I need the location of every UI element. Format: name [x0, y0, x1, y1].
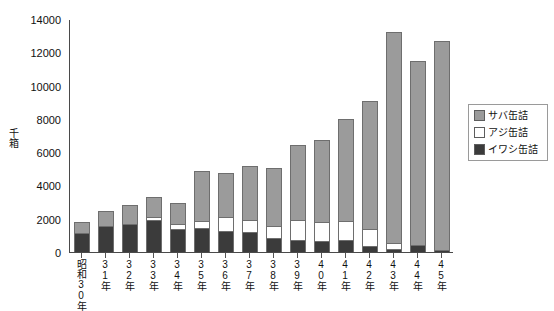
legend-swatch-saba-icon — [474, 110, 485, 121]
chart-legend: サバ缶詰アジ缶詰イワシ缶詰 — [468, 104, 548, 161]
bar-stack[interactable] — [218, 173, 234, 252]
x-axis-tick-label: 38年 — [268, 259, 279, 291]
x-axis-tick-mark — [153, 253, 154, 258]
bar-stack[interactable] — [242, 166, 258, 252]
x-axis-tick-label: 41年 — [340, 259, 351, 291]
bar-segment-iwashi[interactable] — [386, 249, 402, 252]
bar-slot — [190, 20, 214, 252]
y-axis-tick-label: 14000 — [30, 15, 61, 26]
bar-segment-iwashi[interactable] — [410, 245, 426, 252]
legend-item[interactable]: アジ缶詰 — [474, 127, 543, 138]
bar-slot — [430, 20, 454, 252]
bar-slot — [334, 20, 358, 252]
x-axis-tick-mark — [393, 253, 394, 258]
bar-stack[interactable] — [194, 171, 210, 252]
x-axis-tick-mark — [345, 253, 346, 258]
bar-slot — [286, 20, 310, 252]
bar-segment-saba[interactable] — [362, 101, 378, 229]
x-axis-tick-mark — [105, 253, 106, 258]
y-axis-tick-label: 2000 — [37, 214, 61, 225]
x-axis-tick-mark — [249, 253, 250, 258]
legend-label: サバ缶詰 — [488, 110, 528, 121]
bar-segment-aji[interactable] — [218, 217, 234, 231]
legend-swatch-aji-icon — [474, 127, 485, 138]
bar-segment-saba[interactable] — [290, 145, 306, 221]
bar-segment-iwashi[interactable] — [194, 228, 210, 252]
legend-swatch-iwashi-icon — [474, 144, 485, 155]
legend-item[interactable]: イワシ缶詰 — [474, 144, 543, 155]
bar-segment-aji[interactable] — [338, 221, 354, 240]
x-axis-tick-label: 34年 — [172, 259, 183, 291]
bar-segment-iwashi[interactable] — [98, 226, 114, 252]
bar-segment-aji[interactable] — [266, 226, 282, 238]
x-axis-tick-label: 32年 — [124, 259, 135, 291]
bar-segment-iwashi[interactable] — [74, 233, 90, 252]
bar-segment-saba[interactable] — [434, 41, 450, 249]
legend-item[interactable]: サバ缶詰 — [474, 110, 543, 121]
bar-segment-saba[interactable] — [170, 203, 186, 224]
bar-segment-saba[interactable] — [410, 61, 426, 245]
bar-segment-saba[interactable] — [218, 173, 234, 217]
x-axis-tick-mark — [273, 253, 274, 258]
bar-segment-saba[interactable] — [386, 32, 402, 243]
bar-segment-saba[interactable] — [314, 140, 330, 222]
bar-segment-aji[interactable] — [290, 220, 306, 240]
bar-segment-aji[interactable] — [194, 221, 210, 228]
bar-slot — [214, 20, 238, 252]
y-axis-tick-label: 0 — [55, 248, 61, 259]
bar-segment-iwashi[interactable] — [170, 229, 186, 252]
bar-stack[interactable] — [338, 119, 354, 252]
y-axis-tick-label: 4000 — [37, 181, 61, 192]
x-axis-tick-mark — [129, 253, 130, 258]
bar-segment-saba[interactable] — [146, 197, 162, 217]
x-axis-tick-label: 37年 — [244, 259, 255, 291]
bar-segment-saba[interactable] — [338, 119, 354, 221]
bar-stack[interactable] — [98, 211, 114, 252]
bar-segment-saba[interactable] — [74, 222, 90, 233]
x-axis-tick-mark — [369, 253, 370, 258]
bar-segment-iwashi[interactable] — [362, 246, 378, 252]
bar-segment-iwashi[interactable] — [242, 232, 258, 252]
bar-segment-saba[interactable] — [242, 166, 258, 219]
bar-stack[interactable] — [314, 140, 330, 252]
bar-segment-iwashi[interactable] — [290, 240, 306, 252]
bar-segment-iwashi[interactable] — [146, 220, 162, 252]
bar-stack[interactable] — [146, 197, 162, 252]
x-axis-tick-label: 45年 — [436, 259, 447, 291]
bar-stack[interactable] — [410, 61, 426, 252]
bar-segment-saba[interactable] — [98, 211, 114, 226]
bar-stack[interactable] — [386, 32, 402, 252]
plot-area — [70, 20, 453, 252]
y-axis-tick-label: 12000 — [30, 48, 61, 59]
bar-segment-saba[interactable] — [194, 171, 210, 221]
legend-label: イワシ缶詰 — [488, 144, 538, 155]
x-axis-tick-label: 44年 — [412, 259, 423, 291]
y-axis-tick-label: 6000 — [37, 148, 61, 159]
bar-segment-iwashi[interactable] — [218, 231, 234, 252]
bar-segment-aji[interactable] — [362, 229, 378, 246]
bar-segment-aji[interactable] — [314, 222, 330, 241]
bar-slot — [142, 20, 166, 252]
bar-segment-iwashi[interactable] — [434, 250, 450, 252]
bar-stack[interactable] — [290, 145, 306, 252]
bar-stack[interactable] — [170, 203, 186, 252]
x-axis-tick-labels: 昭和30年31年32年33年34年35年36年37年38年39年40年41年42… — [69, 259, 453, 308]
bar-stack[interactable] — [266, 168, 282, 252]
bar-stack[interactable] — [434, 41, 450, 252]
x-axis-tick-mark — [441, 253, 442, 258]
plot-frame — [69, 20, 453, 253]
bar-segment-saba[interactable] — [266, 168, 282, 226]
y-axis-tick-labels: 02000400060008000100001200014000 — [18, 0, 64, 308]
bar-segment-iwashi[interactable] — [266, 238, 282, 252]
bar-stack[interactable] — [74, 222, 90, 252]
bar-segment-iwashi[interactable] — [122, 224, 138, 252]
bar-segment-iwashi[interactable] — [314, 241, 330, 252]
bar-segment-iwashi[interactable] — [338, 240, 354, 252]
x-axis-tick-mark — [225, 253, 226, 258]
x-axis-tick-label: 33年 — [148, 259, 159, 291]
bar-stack[interactable] — [122, 205, 138, 252]
x-axis-tick-label: 35年 — [196, 259, 207, 291]
bar-stack[interactable] — [362, 101, 378, 252]
bar-segment-aji[interactable] — [242, 220, 258, 232]
bar-segment-saba[interactable] — [122, 205, 138, 224]
